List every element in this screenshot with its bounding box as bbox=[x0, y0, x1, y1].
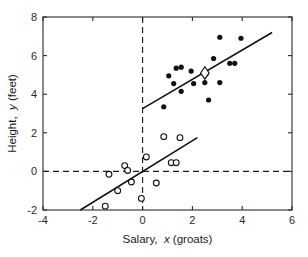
data-point-open bbox=[128, 179, 134, 185]
data-point-filled bbox=[206, 97, 211, 102]
centroid-diamond bbox=[201, 67, 209, 79]
x-tick-label: -2 bbox=[88, 214, 98, 226]
y-tick-label: 8 bbox=[31, 11, 37, 23]
centroid-diamond-marker bbox=[201, 67, 209, 79]
data-point-filled bbox=[211, 56, 216, 61]
data-point-open bbox=[173, 160, 179, 166]
data-point-filled bbox=[174, 66, 179, 71]
y-tick-label: 2 bbox=[31, 127, 37, 139]
data-point-open bbox=[102, 203, 108, 209]
regression-lines bbox=[80, 32, 272, 210]
data-point-open bbox=[115, 188, 121, 194]
reference-lines bbox=[43, 17, 292, 210]
data-point-open bbox=[177, 135, 183, 141]
y-tick-label: 6 bbox=[31, 50, 37, 62]
data-point-filled bbox=[238, 36, 243, 41]
plot-border bbox=[43, 17, 292, 210]
data-point-filled bbox=[202, 80, 207, 85]
data-point-filled bbox=[227, 61, 232, 66]
x-tick-label: 0 bbox=[140, 214, 146, 226]
data-point-filled bbox=[161, 104, 166, 109]
data-point-filled bbox=[166, 73, 171, 78]
x-tick-label: 6 bbox=[289, 214, 295, 226]
data-point-open bbox=[106, 171, 112, 177]
data-point-filled bbox=[189, 68, 194, 73]
data-point-filled bbox=[217, 80, 222, 85]
data-point-filled bbox=[179, 65, 184, 70]
data-point-open bbox=[161, 134, 167, 140]
data-point-filled bbox=[191, 81, 196, 86]
x-tick-label: 4 bbox=[239, 214, 245, 226]
axis-ticks bbox=[43, 17, 292, 210]
y-tick-label: -2 bbox=[27, 204, 37, 216]
y-tick-label: 4 bbox=[31, 88, 37, 100]
data-point-open bbox=[138, 196, 144, 202]
x-tick-label: -4 bbox=[38, 214, 48, 226]
scatter-plot-figure: -4-20246-202468 Salary, x (groats)Height… bbox=[0, 0, 308, 257]
data-point-open bbox=[125, 168, 131, 174]
axes-frame bbox=[43, 17, 292, 210]
data-point-open bbox=[143, 154, 149, 160]
x-axis-title: Salary, x (groats) bbox=[123, 233, 213, 245]
plot-canvas: -4-20246-202468 Salary, x (groats)Height… bbox=[0, 0, 308, 257]
y-axis-title: Height, y (feet) bbox=[6, 74, 18, 153]
data-point-filled bbox=[232, 61, 237, 66]
data-point-filled bbox=[217, 35, 222, 40]
x-tick-label: 2 bbox=[189, 214, 195, 226]
y-tick-label: 0 bbox=[31, 165, 37, 177]
data-point-filled bbox=[171, 81, 176, 86]
data-point-filled bbox=[179, 89, 184, 94]
data-point-open bbox=[153, 180, 159, 186]
